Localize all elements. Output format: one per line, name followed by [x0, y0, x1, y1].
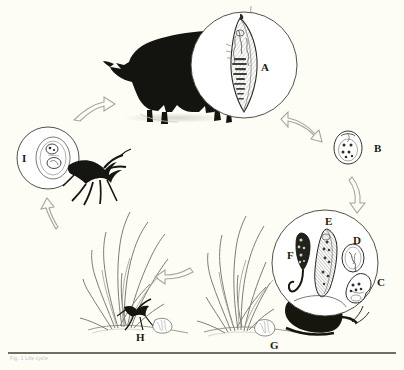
- label-d: D: [353, 235, 361, 246]
- arrow-curved-up-icon: [41, 198, 58, 229]
- stage-a-magnifier-circle: [191, 12, 297, 118]
- label-g: G: [270, 340, 279, 351]
- stage-g-slime-ball: [255, 320, 275, 336]
- arrow-curved-left-icon: [155, 268, 193, 284]
- arrow-curved-right-icon: [74, 97, 115, 121]
- arrow-curved-down-icon: [349, 177, 365, 213]
- label-b: B: [374, 143, 382, 154]
- label-a: A: [261, 62, 269, 73]
- label-f: F: [287, 250, 294, 261]
- stage-h-scene: [80, 212, 188, 333]
- footer-divider: [8, 352, 396, 354]
- label-e: E: [325, 216, 333, 227]
- label-i: I: [22, 153, 27, 164]
- label-c: C: [377, 277, 385, 288]
- stage-h-slime-ball: [153, 318, 172, 333]
- stage-b-egg: [334, 131, 362, 164]
- stage-d-sporocyst: [342, 244, 364, 272]
- figure-caption: Fig. 1 Life cycle: [10, 356, 48, 361]
- label-h: H: [136, 332, 145, 343]
- life-cycle-figure: A B C D E F G H I Fig. 1 Life cycle: [0, 0, 404, 370]
- arrow-curved-down-right-icon: [281, 112, 322, 142]
- figure-artwork: [0, 0, 404, 370]
